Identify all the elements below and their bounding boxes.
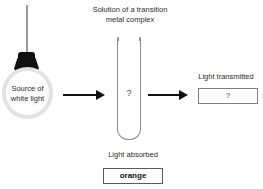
source-label: Source of white light — [2, 84, 53, 103]
light-transmitted-answer-box[interactable]: ? — [198, 88, 258, 104]
solution-caption: Solution of a transition metal complex — [72, 5, 188, 24]
light-transmitted-value: ? — [226, 91, 230, 101]
arrow-source-to-solution-shaft — [63, 94, 98, 96]
bulb-wire — [26, 5, 28, 53]
light-absorbed-value: orange — [120, 171, 147, 181]
light-transmitted-label: Light transmitted — [190, 72, 262, 82]
solution-contents-value: ? — [117, 88, 141, 99]
arrow-solution-to-transmitted-head — [179, 90, 188, 100]
light-absorbed-answer-box[interactable]: orange — [103, 168, 163, 184]
arrow-source-to-solution-head — [96, 90, 105, 100]
light-absorption-diagram: Solution of a transition metal complex S… — [0, 0, 263, 189]
light-absorbed-label: Light absorbed — [93, 150, 173, 160]
light-source-group: Source of white light — [0, 0, 60, 125]
arrow-solution-to-transmitted-shaft — [148, 94, 181, 96]
